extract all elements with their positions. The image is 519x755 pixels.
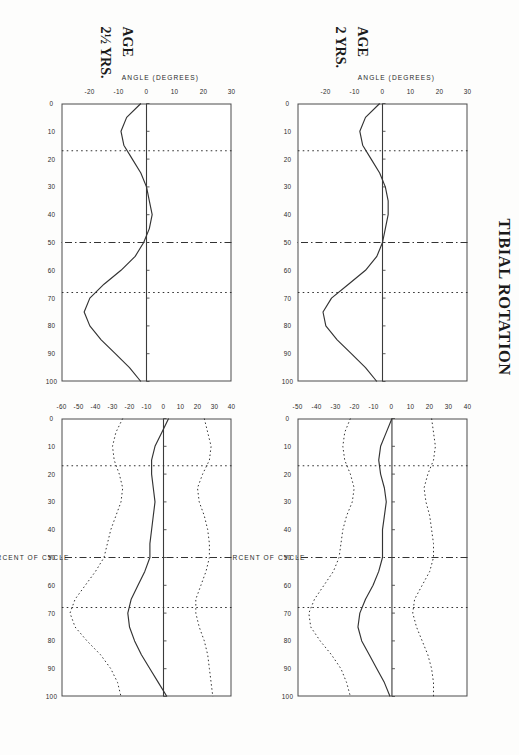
plot-canvas <box>297 418 467 696</box>
row-1-age-label: AGE <box>353 26 369 56</box>
xtick-label: 0 <box>285 415 289 422</box>
plot-canvas <box>61 103 231 381</box>
y-axis-label: ANGLE (DEGREES) <box>122 74 199 81</box>
xtick-label: 60 <box>283 581 291 588</box>
ytick-label: 30 <box>227 88 235 95</box>
xtick-label: 30 <box>47 183 55 190</box>
xtick-label: 50 <box>283 239 291 246</box>
ytick-label: 0 <box>380 88 384 95</box>
figure-page: TIBIAL ROTATION AGE 2 YRS. 0102030405060… <box>0 0 519 755</box>
ytick-label: -20 <box>124 403 134 410</box>
ytick-label: -40 <box>90 403 100 410</box>
ytick-label: -30 <box>330 403 340 410</box>
xtick-label: 30 <box>283 498 291 505</box>
xtick-label: 60 <box>47 266 55 273</box>
xtick-label: 100 <box>281 378 292 385</box>
xtick-label: 10 <box>47 442 55 449</box>
xtick-label: 20 <box>47 470 55 477</box>
plot-canvas <box>61 418 231 696</box>
ytick-label: -50 <box>292 403 302 410</box>
xtick-label: 80 <box>47 637 55 644</box>
xtick-label: 60 <box>283 266 291 273</box>
ytick-label: 10 <box>176 403 184 410</box>
xtick-label: 20 <box>283 155 291 162</box>
xtick-label: 70 <box>47 294 55 301</box>
ytick-label: -30 <box>107 403 117 410</box>
xtick-label: 80 <box>283 322 291 329</box>
ytick-label: -60 <box>56 403 66 410</box>
ytick-label: 10 <box>407 403 415 410</box>
xtick-label: 100 <box>281 693 292 700</box>
ytick-label: -20 <box>84 88 94 95</box>
xtick-label: 90 <box>47 350 55 357</box>
xtick-label: 40 <box>47 526 55 533</box>
ytick-label: 40 <box>463 403 471 410</box>
page-title: TIBIAL ROTATION <box>493 218 513 375</box>
ytick-label: -50 <box>73 403 83 410</box>
ytick-label: 0 <box>144 88 148 95</box>
xtick-label: 10 <box>283 442 291 449</box>
xtick-label: 40 <box>47 211 55 218</box>
ytick-label: -10 <box>349 88 359 95</box>
x-axis-label: PERCENT OF CYCLE <box>0 554 69 561</box>
panel-2half-individual: 01020304050607080901003020100-10-20ANGLE… <box>61 103 231 381</box>
ytick-label: -10 <box>141 403 151 410</box>
ytick-label: 10 <box>407 88 415 95</box>
xtick-label: 80 <box>283 637 291 644</box>
row-2-age-value: 2½ YRS. <box>96 26 112 78</box>
panel-2yrs-individual: 01020304050607080901003020100-10-20ANGLE… <box>297 103 467 381</box>
xtick-label: 100 <box>45 378 56 385</box>
xtick-label: 40 <box>283 526 291 533</box>
xtick-label: 30 <box>283 183 291 190</box>
row-2-age-label: AGE <box>118 26 134 56</box>
ytick-label: 20 <box>193 403 201 410</box>
xtick-label: 90 <box>283 350 291 357</box>
ytick-label: 30 <box>210 403 218 410</box>
xtick-label: 30 <box>47 498 55 505</box>
x-axis-label: PERCENT OF CYCLE <box>221 554 305 561</box>
xtick-label: 0 <box>285 100 289 107</box>
y-axis-label: ANGLE (DEGREES) <box>358 74 435 81</box>
xtick-label: 70 <box>47 609 55 616</box>
ytick-label: 20 <box>425 403 433 410</box>
xtick-label: 70 <box>283 609 291 616</box>
ytick-label: 20 <box>199 88 207 95</box>
xtick-label: 80 <box>47 322 55 329</box>
ytick-label: 10 <box>171 88 179 95</box>
ytick-label: 30 <box>463 88 471 95</box>
ytick-label: -40 <box>311 403 321 410</box>
xtick-label: 90 <box>283 665 291 672</box>
ytick-label: -10 <box>368 403 378 410</box>
panel-2half-band: 0102030405060708090100403020100-10-20-30… <box>61 418 231 696</box>
ytick-label: -20 <box>320 88 330 95</box>
ytick-label: 40 <box>227 403 235 410</box>
xtick-label: 60 <box>47 581 55 588</box>
xtick-label: 10 <box>47 127 55 134</box>
ytick-label: 20 <box>435 88 443 95</box>
ytick-label: 0 <box>161 403 165 410</box>
xtick-label: 10 <box>283 127 291 134</box>
xtick-label: 0 <box>49 415 53 422</box>
row-1-age-value: 2 YRS. <box>331 26 347 68</box>
ytick-label: -20 <box>349 403 359 410</box>
xtick-label: 70 <box>283 294 291 301</box>
ytick-label: 30 <box>444 403 452 410</box>
xtick-label: 40 <box>283 211 291 218</box>
xtick-label: 50 <box>47 239 55 246</box>
ytick-label: -10 <box>113 88 123 95</box>
xtick-label: 100 <box>45 693 56 700</box>
xtick-label: 20 <box>47 155 55 162</box>
ytick-label: 0 <box>390 403 394 410</box>
panel-2yrs-band: 0102030405060708090100403020100-10-20-30… <box>297 418 467 696</box>
plot-canvas <box>297 103 467 381</box>
xtick-label: 20 <box>283 470 291 477</box>
xtick-label: 90 <box>47 665 55 672</box>
xtick-label: 0 <box>49 100 53 107</box>
